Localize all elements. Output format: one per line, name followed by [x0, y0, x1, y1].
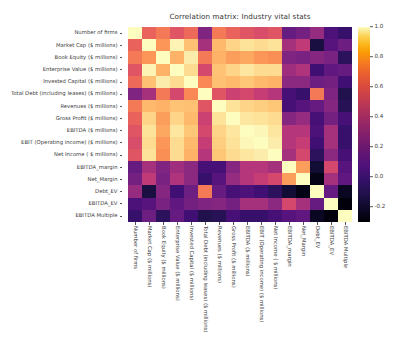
heatmap-cell [296, 137, 310, 149]
heatmap-cell [324, 137, 338, 149]
heatmap-cell [310, 198, 324, 210]
heatmap-cell [268, 39, 282, 51]
heatmap-cell [128, 27, 142, 39]
x-tick-text: Net_Margin [300, 226, 305, 256]
heatmap-cell [268, 88, 282, 100]
heatmap-cell [282, 161, 296, 173]
heatmap-cell [170, 210, 184, 222]
heatmap-cell [338, 39, 352, 51]
heatmap-cell [240, 112, 254, 124]
heatmap-cell [226, 210, 240, 222]
heatmap-cell [338, 149, 352, 161]
heatmap-cell [282, 137, 296, 149]
heatmap-cell [128, 39, 142, 51]
heatmap-cell [282, 51, 296, 63]
heatmap-cell [310, 137, 324, 149]
heatmap-cell [170, 161, 184, 173]
heatmap-cell [156, 88, 170, 100]
heatmap-cell [212, 112, 226, 124]
heatmap-cell [310, 173, 324, 185]
heatmap-cell [184, 112, 198, 124]
heatmap-cell [268, 173, 282, 185]
heatmap-cell [198, 100, 212, 112]
heatmap-cell [142, 149, 156, 161]
heatmap-cell [268, 161, 282, 173]
x-tick-mark [345, 222, 346, 225]
heatmap-cell [254, 173, 268, 185]
heatmap-cell [240, 125, 254, 137]
heatmap-cell [338, 88, 352, 100]
x-tick-label: Book Equity ($ millions) [156, 222, 170, 334]
colorbar-tick: 0.6 [370, 84, 383, 90]
heatmap-cell [296, 149, 310, 161]
heatmap-cell [240, 76, 254, 88]
y-tick-text: EBITDA_EV [88, 201, 117, 206]
x-tick-label: EBITDA_EV [324, 222, 338, 334]
heatmap-cell [156, 76, 170, 88]
x-tick-label: Debt_EV [310, 222, 324, 334]
heatmap-cell [212, 149, 226, 161]
heatmap-cell [198, 161, 212, 173]
heatmap-cell [184, 173, 198, 185]
y-tick-mark [120, 179, 123, 180]
heatmap-cell [324, 210, 338, 222]
heatmap-cell [324, 100, 338, 112]
heatmap-cell [226, 137, 240, 149]
heatmap-cell [240, 64, 254, 76]
x-tick-mark [149, 222, 150, 225]
y-tick-mark [120, 94, 123, 95]
heatmap-cell [254, 51, 268, 63]
heatmap-cell [282, 173, 296, 185]
heatmap-cell [254, 112, 268, 124]
heatmap-cell [142, 185, 156, 197]
heatmap-cell [212, 76, 226, 88]
heatmap-cell [226, 88, 240, 100]
y-tick-mark [120, 203, 123, 204]
heatmap-cell [170, 64, 184, 76]
heatmap-cell [338, 76, 352, 88]
heatmap-cell [198, 51, 212, 63]
x-tick-text: Number of firms [132, 226, 137, 269]
heatmap-cell [338, 51, 352, 63]
heatmap-cell [226, 51, 240, 63]
heatmap-cell [198, 76, 212, 88]
x-tick-label: Market Cap ($ millions) [142, 222, 156, 334]
heatmap-cell [324, 64, 338, 76]
heatmap-cell [296, 64, 310, 76]
heatmap-cell [296, 112, 310, 124]
heatmap-cell [170, 185, 184, 197]
heatmap-cell [324, 88, 338, 100]
y-tick-label: Invested Capital ($ millions) [0, 76, 126, 88]
x-tick-text: EBITDA_margin [286, 226, 291, 267]
heatmap-cell [142, 161, 156, 173]
heatmap-cell [324, 173, 338, 185]
heatmap-cell [184, 64, 198, 76]
y-tick-label: EBITDA Multiple [0, 210, 126, 222]
x-tick-text: EBITDA ($ millions) [244, 226, 249, 277]
colorbar-tick-mark [370, 56, 373, 57]
heatmap-cell [184, 88, 198, 100]
y-tick-label: EBITDA_EV [0, 198, 126, 210]
heatmap-cell [128, 88, 142, 100]
colorbar-tick-text: 0.0 [375, 173, 384, 179]
heatmap-cell [310, 185, 324, 197]
x-tick-label: EBIT (Operating income) ($ millions) [254, 222, 268, 334]
heatmap-cell [156, 198, 170, 210]
heatmap-cell [268, 125, 282, 137]
heatmap-cell [338, 27, 352, 39]
colorbar-tick: 0.8 [370, 54, 383, 60]
heatmap-cell [198, 173, 212, 185]
heatmap-cell [310, 64, 324, 76]
heatmap-cell [142, 88, 156, 100]
heatmap-cell [212, 185, 226, 197]
y-tick-mark [120, 106, 123, 107]
heatmap-cell [338, 64, 352, 76]
x-tick-label: EBITDA_margin [282, 222, 296, 334]
heatmap-cell [254, 149, 268, 161]
x-tick-text: Invested Capital ($ millions) [188, 226, 193, 300]
heatmap-cell [184, 198, 198, 210]
y-tick-mark [120, 33, 123, 34]
heatmap-cell [156, 39, 170, 51]
heatmap-cell [226, 173, 240, 185]
heatmap-cell [212, 88, 226, 100]
